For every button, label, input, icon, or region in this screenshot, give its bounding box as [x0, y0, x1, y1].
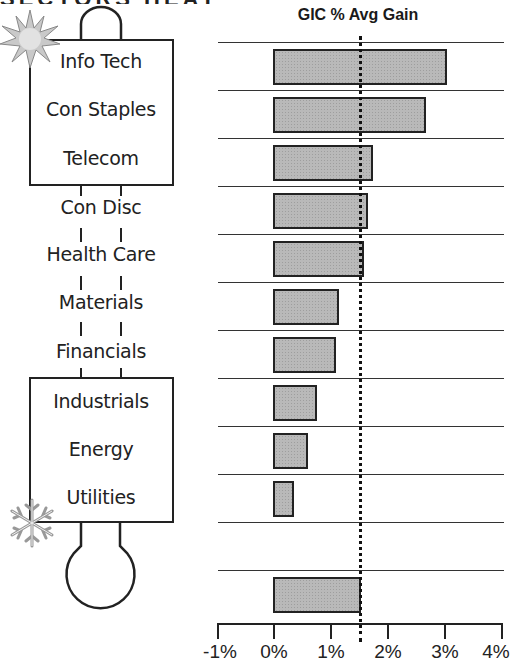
bar-health-care [273, 241, 364, 277]
stem-right [120, 228, 122, 242]
stem-right [120, 276, 122, 290]
bar-con-staples [273, 97, 426, 133]
thermometer-bulb [60, 520, 142, 625]
bar-materials [273, 289, 339, 325]
bar-con-disc [273, 193, 368, 229]
thermometer-cap [78, 4, 124, 44]
cut-off-header: SECTORS HEAT [0, 0, 260, 4]
bar-industrials [273, 385, 317, 421]
x-axis [218, 623, 503, 625]
x-tick [444, 623, 446, 639]
sector-label-con-disc: Con Disc [3, 196, 199, 218]
stem-left [80, 228, 82, 242]
x-tick-label: 2% [358, 641, 418, 663]
x-tick [387, 623, 389, 639]
sector-label-energy: Energy [3, 438, 199, 460]
bar-telecom [273, 145, 373, 181]
sector-label-con-staples: Con Staples [3, 98, 199, 120]
sector-label-utilities: Utilities [3, 486, 199, 508]
stem-right [120, 186, 122, 196]
sector-label-info-tech: Info Tech [3, 50, 199, 72]
x-tick-label: 1% [301, 641, 361, 663]
x-tick-label: -1% [190, 641, 250, 663]
x-tick [273, 623, 275, 639]
sector-label-financials: Financials [3, 340, 199, 362]
bar-financials [273, 337, 336, 373]
sector-label-materials: Materials [3, 291, 199, 313]
sector-label-telecom: Telecom [3, 147, 199, 169]
chart-title: GIC % Avg Gain [258, 6, 458, 24]
bar-utilities [273, 481, 294, 517]
stem-right [120, 322, 122, 336]
bar-average [273, 577, 361, 613]
stem-left [80, 276, 82, 290]
x-tick [501, 623, 503, 639]
stem-left [80, 322, 82, 336]
x-tick [217, 623, 219, 639]
x-tick-label: 4% [466, 641, 516, 663]
sector-label-health-care: Health Care [3, 243, 199, 265]
x-tick [330, 623, 332, 639]
x-tick-label: 0% [244, 641, 304, 663]
average-reference-line [359, 36, 362, 642]
bar-energy [273, 433, 308, 469]
stem-left [80, 186, 82, 196]
sector-label-industrials: Industrials [3, 390, 199, 412]
